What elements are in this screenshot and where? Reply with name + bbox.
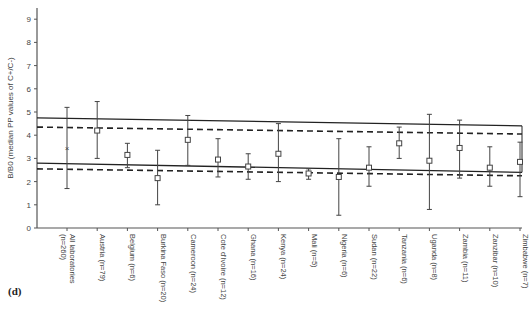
square-marker-icon [427,158,432,163]
x-category-label: Zambia (n=11) [461,234,470,283]
data-point [457,120,462,178]
data-point [427,114,432,209]
reference-line-lower-dashed [37,169,522,176]
y-tick-label: 2 [27,178,32,187]
y-tick-label: 5 [27,108,32,117]
square-marker-icon [487,165,492,170]
error-bar-chart: 0123456789 All laboratories(n=260)Austri… [0,0,530,321]
y-axis-label: B/B0 (median PP values of C+/C-) [6,57,15,179]
reference-lines [37,118,522,176]
x-category-label: Uganda (n=8) [430,234,439,281]
data-points: × [65,102,523,216]
square-marker-icon [185,137,190,142]
x-category-label: Tanzania (n=6) [400,234,409,284]
square-marker-icon [216,157,221,162]
data-point [246,154,251,180]
x-category-label: Mali (n=5) [310,234,319,268]
x-category-label: Ghana (n=16) [249,234,258,281]
square-marker-icon [457,145,462,150]
x-category-label: Cameroon (n=24) [189,234,198,293]
x-axis: All laboratories(n=260)Austria (n=79)Bel… [37,228,530,303]
x-marker-icon: × [65,144,70,153]
y-tick-label: 6 [27,85,32,94]
x-category-label: Kenya (n=24) [279,234,288,280]
square-marker-icon [306,171,311,176]
y-tick-label: 3 [27,154,32,163]
data-point [125,143,130,167]
data-point [185,115,190,165]
y-tick-label: 4 [27,131,32,140]
square-marker-icon [397,141,402,146]
square-marker-icon [336,174,341,179]
square-marker-icon [95,128,100,133]
x-category-label: All laboratories [68,234,77,284]
x-category-label: Zanzibar (n=10) [491,234,500,288]
data-point [487,147,492,186]
y-axis: 0123456789 [27,8,37,233]
data-point [155,150,160,205]
data-point [306,169,311,179]
x-category-label: Sudan (n=22) [370,234,379,280]
data-point [336,139,341,216]
data-point [95,102,100,159]
y-tick-label: 0 [27,224,32,233]
reference-line-upper-dashed [37,127,522,134]
y-tick-label: 9 [27,15,32,24]
reference-line-lower-solid [37,163,522,172]
square-marker-icon [155,176,160,181]
y-tick-label: 7 [27,62,32,71]
x-category-label: Zimbabwe (n=7) [521,234,530,289]
x-category-label: (n=260) [59,234,68,261]
y-tick-label: 8 [27,38,32,47]
y-tick-label: 1 [27,201,32,210]
square-marker-icon [276,151,281,156]
data-point [367,147,372,186]
square-marker-icon [246,164,251,169]
square-marker-icon [125,152,130,157]
panel-label: (d) [8,285,21,297]
square-marker-icon [367,165,372,170]
x-category-label: Nigeria (n=6) [340,234,349,278]
x-category-label: Burkina Faso (n=20) [159,234,168,303]
x-category-label: Belgium (n=6) [128,234,137,281]
square-marker-icon [518,159,523,164]
x-category-label: Austria (n=79) [98,234,107,282]
x-category-label: Cote d'Ivoire (n=12) [219,234,228,300]
reference-line-upper-solid [37,118,522,126]
data-point: × [65,107,70,188]
